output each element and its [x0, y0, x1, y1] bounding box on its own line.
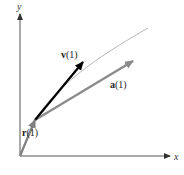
vector-diagram: x y r(1) v(1) a(1): [0, 0, 184, 175]
y-axis-label: y: [16, 1, 22, 12]
position-vector-arrow: [20, 120, 35, 156]
position-vector-arg: (1): [26, 127, 38, 139]
trajectory-curve: [20, 28, 148, 156]
acceleration-vector-label: a(1): [110, 79, 127, 91]
acceleration-vector-arg: (1): [115, 79, 127, 91]
velocity-vector-arg: (1): [66, 49, 78, 61]
x-axis-label: x: [173, 151, 179, 162]
position-vector-label: r(1): [22, 127, 38, 139]
velocity-vector-label: v(1): [61, 49, 78, 61]
velocity-vector-arrow: [35, 62, 83, 120]
